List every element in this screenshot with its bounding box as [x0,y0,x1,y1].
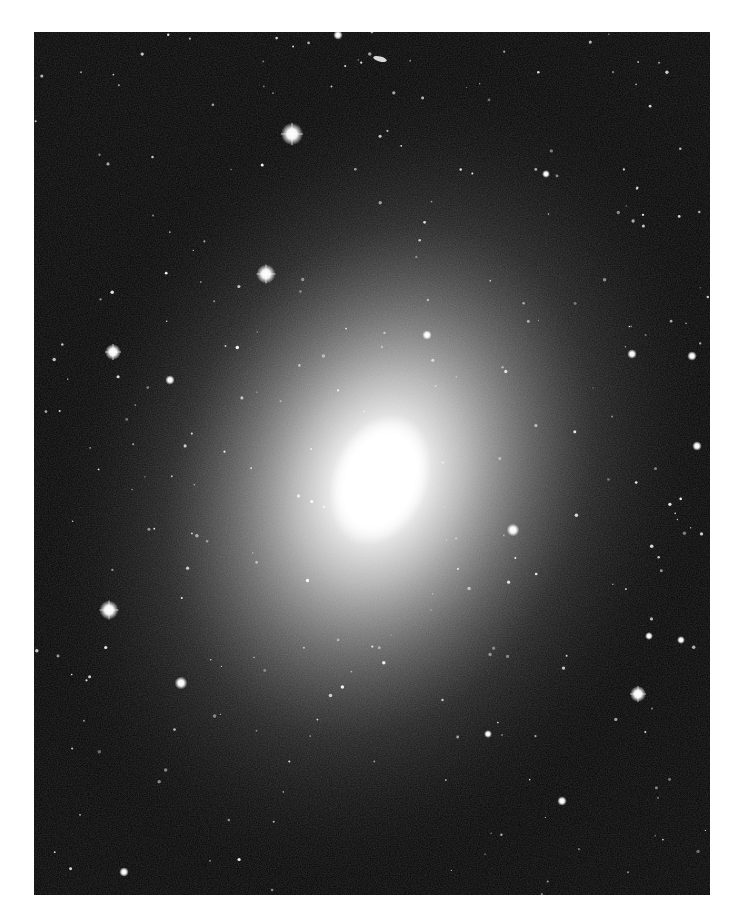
galaxy-photograph [34,32,710,895]
night-sky-image [34,32,710,895]
film-grain [34,32,710,895]
